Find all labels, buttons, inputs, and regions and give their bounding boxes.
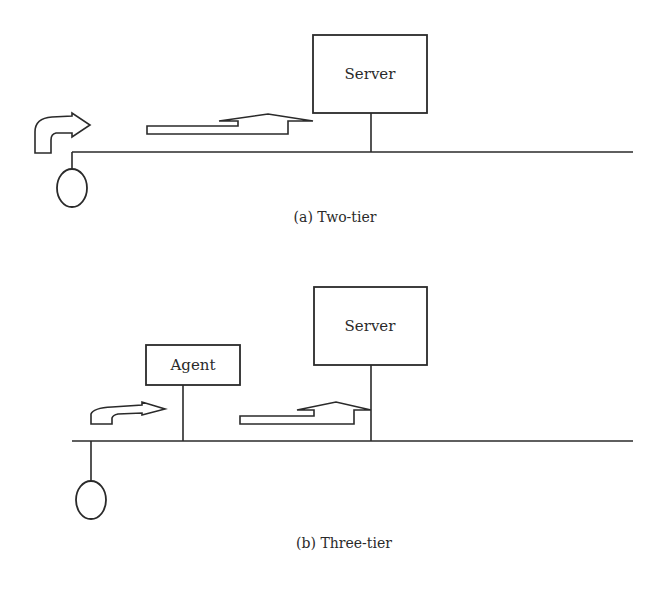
client-server-diagram: Server (a) Two-tier Server Agent [0, 0, 664, 589]
curved-request-arrow-icon [35, 113, 90, 153]
server-node-a: Server [313, 35, 427, 113]
client-node-icon [76, 481, 106, 519]
server-label: Server [345, 317, 397, 335]
caption-two-tier: (a) Two-tier [294, 209, 377, 225]
agent-label: Agent [170, 356, 216, 374]
return-arrow-icon [240, 402, 371, 424]
agent-node: Agent [146, 345, 240, 385]
return-arrow-icon [147, 114, 313, 134]
server-label: Server [345, 65, 397, 83]
panel-two-tier: Server (a) Two-tier [35, 35, 633, 225]
curved-request-arrow-icon [91, 402, 165, 424]
panel-three-tier: Server Agent (b) Three-tier [72, 287, 633, 551]
server-node-b: Server [314, 287, 427, 365]
client-node-icon [57, 169, 87, 207]
caption-three-tier: (b) Three-tier [296, 535, 392, 551]
